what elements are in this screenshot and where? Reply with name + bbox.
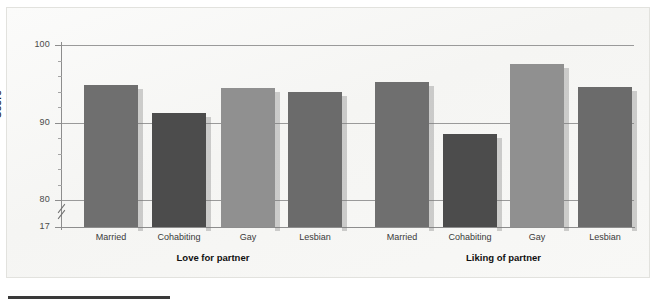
y-tick-100 [55,45,62,46]
group-label-love-for-partner: Love for partner [84,252,342,263]
x-tick-label-cohabiting: Cohabiting [433,232,507,242]
x-tick-label-gay: Gay [500,232,574,242]
figure-container: Score 100908017 MarriedCohabitingGayLesb… [0,0,657,307]
x-tick-label-gay: Gay [211,232,285,242]
x-tick-label-lesbian: Lesbian [278,232,352,242]
x-axis-line [61,227,635,228]
bar-shadow [275,92,280,231]
bar-liking-of-partner-cohabiting[interactable] [443,134,497,227]
group-label-liking-of-partner: Liking of partner [375,252,632,263]
bar-body [510,64,564,227]
bar-shadow [497,138,502,231]
y-tick-label-17: 17 [28,221,50,231]
y-tick-label-100: 100 [28,39,50,49]
bar-shadow [632,91,637,231]
bar-shadow [138,89,143,231]
bar-body [375,82,429,227]
bar-shadow [564,68,569,231]
y-tick-label-90: 90 [28,117,50,127]
bar-body [443,134,497,227]
bar-body [221,88,275,227]
x-tick-label-lesbian: Lesbian [568,232,642,242]
bar-liking-of-partner-married[interactable] [375,82,429,227]
y-axis-title: Score [0,90,3,118]
bar-love-for-partner-married[interactable] [84,85,138,227]
bar-liking-of-partner-gay[interactable] [510,64,564,227]
bar-body [578,87,632,227]
x-tick-label-married: Married [365,232,439,242]
y-tick-17 [55,227,62,228]
caption-rule [8,296,170,299]
bar-shadow [206,117,211,231]
bar-body [84,85,138,227]
bar-body [152,113,206,227]
bar-love-for-partner-lesbian[interactable] [288,92,342,228]
y-tick-80 [55,200,62,201]
bar-love-for-partner-gay[interactable] [221,88,275,227]
bar-shadow [429,86,434,231]
plot-area [62,45,634,227]
y-tick-90 [55,123,62,124]
bar-shadow [342,96,347,232]
x-tick-label-cohabiting: Cohabiting [142,232,216,242]
bar-body [288,92,342,228]
bar-liking-of-partner-lesbian[interactable] [578,87,632,227]
bar-love-for-partner-cohabiting[interactable] [152,113,206,227]
x-tick-label-married: Married [74,232,148,242]
y-tick-label-80: 80 [28,194,50,204]
